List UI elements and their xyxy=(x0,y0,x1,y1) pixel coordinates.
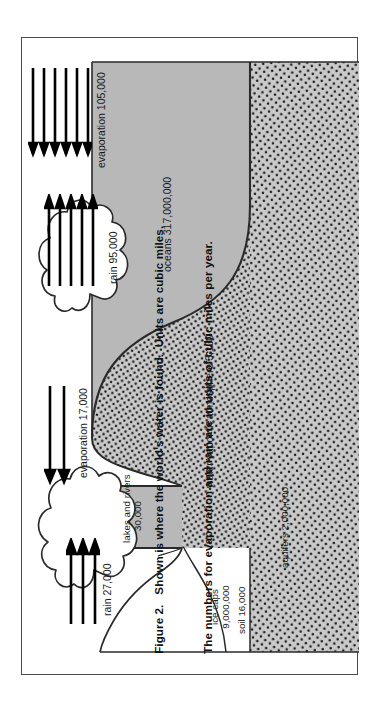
arrows-rain-ocean xyxy=(44,194,98,286)
caption-line-2: The numbers for evaporation and rain are… xyxy=(200,114,216,654)
caption-line-1: Figure 2. Shown is where the world's wat… xyxy=(151,114,167,654)
label-evaporation-land: evaporation 17,000 xyxy=(78,388,90,478)
arrows-evaporation-ocean xyxy=(28,60,92,160)
figure-page: evaporation 105,000 rain 95,000 oceans 3… xyxy=(0,0,383,718)
arrows-rain-land xyxy=(66,538,100,624)
label-aquifers: aquifers 2,000,000 xyxy=(280,487,291,568)
arrows-evaporation-land xyxy=(44,382,72,486)
figure-caption: Figure 2. Shown is where the world's wat… xyxy=(118,114,250,654)
label-evaporation-ocean: evaporation 105,000 xyxy=(96,72,108,168)
label-rain-land: rain 27,000 xyxy=(102,563,114,616)
